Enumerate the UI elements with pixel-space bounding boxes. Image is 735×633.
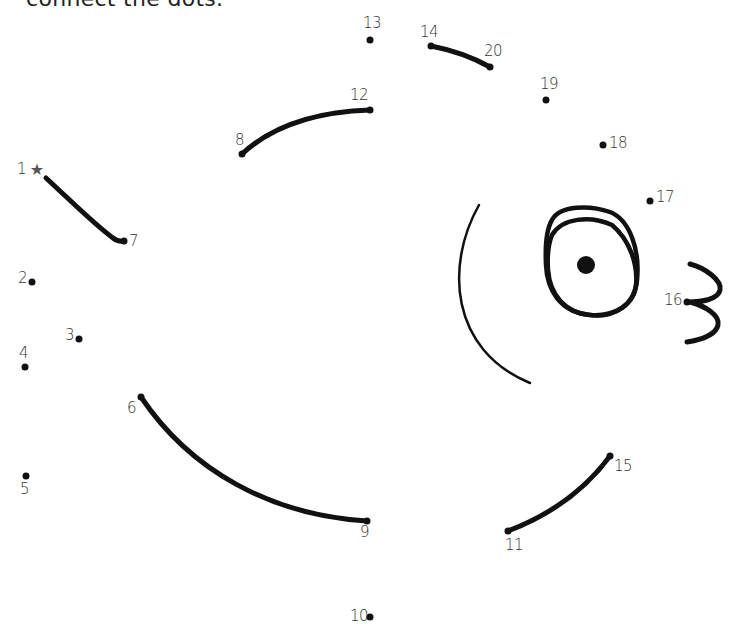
- fish-pupil: [577, 256, 595, 274]
- dot-label-20: 20: [484, 44, 502, 59]
- dot-label-18: 18: [609, 136, 627, 151]
- dot-label-4: 4: [19, 346, 28, 361]
- dot-17: [647, 198, 654, 205]
- segment-1-7: [46, 178, 124, 241]
- dot-label-6: 6: [127, 401, 136, 416]
- dot-label-16: 16: [664, 293, 682, 308]
- dot-14: [428, 43, 435, 50]
- dot-11: [505, 528, 512, 535]
- drawn-segments: [46, 46, 610, 531]
- dot-label-13: 13: [363, 16, 381, 31]
- dot-7: [121, 238, 128, 245]
- dot-16: [684, 299, 691, 306]
- fish-cheek-arc: [459, 205, 530, 383]
- dot-18: [600, 142, 607, 149]
- dot-13: [367, 37, 374, 44]
- segment-6-9: [141, 397, 367, 521]
- segment-8-12: [242, 110, 370, 154]
- dot-label-2: 2: [18, 271, 27, 286]
- segment-11-15: [508, 456, 610, 531]
- dot-label-15: 15: [614, 459, 632, 474]
- dot-2: [29, 279, 36, 286]
- dot-label-11: 11: [505, 538, 523, 553]
- dot-label-5: 5: [20, 482, 29, 497]
- dot-6: [138, 394, 145, 401]
- dot-label-17: 17: [656, 190, 674, 205]
- dot-label-14: 14: [420, 25, 438, 40]
- dot-label-3: 3: [65, 328, 74, 343]
- segment-14-20: [431, 46, 490, 67]
- dot-8: [239, 151, 246, 158]
- worksheet: connect the dots. ★123456789101112131420…: [0, 0, 735, 633]
- dot-15: [607, 453, 614, 460]
- dot-12: [367, 107, 374, 114]
- dot-label-7: 7: [129, 234, 138, 249]
- dot-label-9: 9: [360, 525, 369, 540]
- fish-mouth: [687, 264, 720, 342]
- dot-3: [76, 336, 83, 343]
- dot-label-8: 8: [235, 133, 244, 148]
- dot-label-12: 12: [350, 88, 368, 103]
- dot-label-10: 10: [350, 609, 368, 624]
- dot-4: [22, 364, 29, 371]
- dot-20: [487, 64, 494, 71]
- star-icon: ★: [30, 162, 44, 178]
- dot-5: [23, 473, 30, 480]
- dot-label-19: 19: [540, 77, 558, 92]
- dot-label-1: 1: [17, 162, 26, 177]
- dot-19: [543, 97, 550, 104]
